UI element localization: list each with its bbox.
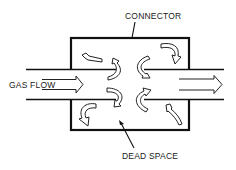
gas-flow-label: GAS FLOW	[9, 80, 55, 90]
eddy-arrow-icon	[137, 56, 150, 78]
eddy-arrow-icon	[79, 104, 96, 126]
dead-space-leader-line	[121, 123, 134, 148]
outlet-flow-arrow-icon	[179, 76, 222, 94]
connector-label: CONNECTOR	[125, 11, 181, 21]
eddy-arrow-icon	[161, 44, 181, 65]
dead-space-arrowhead-icon	[119, 120, 124, 125]
dead-space-label: DEAD SPACE	[122, 151, 178, 161]
connector-chamber	[71, 38, 189, 130]
connector-leader-line	[132, 22, 135, 38]
eddy-arrow-icon	[107, 88, 122, 107]
connector-dead-space-diagram: CONNECTOR GAS FLOW DEAD SPACE	[0, 0, 236, 170]
eddy-arrow-icon	[82, 53, 102, 62]
eddy-arrow-icon	[166, 104, 182, 125]
